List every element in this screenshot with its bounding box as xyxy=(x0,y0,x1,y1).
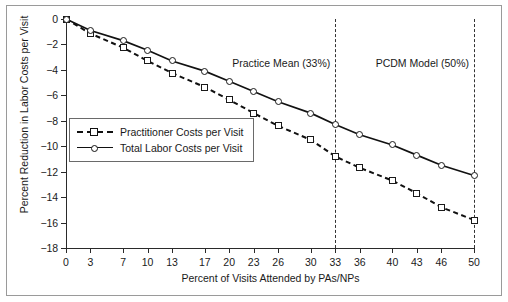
data-point-marker xyxy=(307,110,314,117)
data-point-marker xyxy=(471,217,478,224)
x-tick-mark xyxy=(229,248,230,253)
data-point-marker xyxy=(226,96,233,103)
y-tick-label: −10 xyxy=(40,140,58,152)
legend-label-total-labor: Total Labor Costs per Visit xyxy=(120,142,242,154)
legend-item-practitioner: Practitioner Costs per Visit xyxy=(77,124,244,140)
x-tick-mark xyxy=(123,248,124,253)
data-point-marker xyxy=(201,84,208,91)
x-tick-mark xyxy=(254,248,255,253)
x-tick-label: 23 xyxy=(248,256,260,268)
y-tick-label: 0 xyxy=(52,13,58,25)
x-tick-mark xyxy=(474,248,475,253)
data-point-marker xyxy=(87,27,94,34)
data-point-marker xyxy=(389,177,396,184)
x-tick-label: 30 xyxy=(305,256,317,268)
data-point-marker xyxy=(63,16,70,23)
data-point-marker xyxy=(438,204,445,211)
x-tick-label: 26 xyxy=(272,256,284,268)
reference-line xyxy=(474,19,475,248)
x-tick-label: 43 xyxy=(411,256,423,268)
data-point-marker xyxy=(250,110,257,117)
data-point-marker xyxy=(120,37,127,44)
solid-line-swatch-icon xyxy=(77,142,113,154)
data-point-marker xyxy=(438,162,445,169)
x-tick-mark xyxy=(148,248,149,253)
chart-figure: Percent Reduction in Labor Costs per Vis… xyxy=(0,0,508,302)
x-tick-mark xyxy=(392,248,393,253)
data-point-marker xyxy=(275,122,282,129)
x-tick-label: 0 xyxy=(63,256,69,268)
x-axis-title: Percent of Visits Attended by PAs/NPs xyxy=(66,272,475,284)
x-tick-label: 17 xyxy=(199,256,211,268)
chart-legend: Practitioner Costs per Visit Total Labor… xyxy=(69,118,254,162)
data-point-marker xyxy=(169,70,176,77)
y-tick-label: −18 xyxy=(40,242,58,254)
data-point-marker xyxy=(201,68,208,75)
x-tick-label: 33 xyxy=(329,256,341,268)
x-tick-label: 3 xyxy=(88,256,94,268)
x-tick-mark xyxy=(335,248,336,253)
data-point-marker xyxy=(226,78,233,85)
x-tick-mark xyxy=(441,248,442,253)
x-tick-mark xyxy=(66,248,67,253)
x-tick-label: 46 xyxy=(436,256,448,268)
data-point-marker xyxy=(413,190,420,197)
y-tick-label: −16 xyxy=(40,217,58,229)
data-point-marker xyxy=(413,152,420,159)
y-tick-label: −12 xyxy=(40,166,58,178)
x-tick-label: 13 xyxy=(166,256,178,268)
x-tick-label: 20 xyxy=(223,256,235,268)
y-tick-label: −2 xyxy=(46,38,58,50)
x-tick-label: 50 xyxy=(468,256,480,268)
dashed-line-swatch-icon xyxy=(77,126,113,138)
y-axis-title: Percent Reduction in Labor Costs per Vis… xyxy=(18,0,30,229)
data-point-marker xyxy=(332,121,339,128)
data-point-marker xyxy=(275,98,282,105)
data-point-marker xyxy=(307,136,314,143)
x-tick-mark xyxy=(90,248,91,253)
x-tick-label: 7 xyxy=(120,256,126,268)
data-point-marker xyxy=(471,172,478,179)
y-tick-label: −6 xyxy=(46,89,58,101)
data-point-marker xyxy=(332,153,339,160)
x-tick-mark xyxy=(311,248,312,253)
y-tick-label: −8 xyxy=(46,115,58,127)
x-tick-mark xyxy=(205,248,206,253)
x-tick-mark xyxy=(278,248,279,253)
x-tick-mark xyxy=(417,248,418,253)
y-tick-label: −4 xyxy=(46,64,58,76)
x-tick-label: 40 xyxy=(387,256,399,268)
data-point-marker xyxy=(144,47,151,54)
x-axis-line xyxy=(66,248,475,249)
x-tick-label: 36 xyxy=(354,256,366,268)
data-point-marker xyxy=(144,57,151,64)
x-tick-label: 10 xyxy=(142,256,154,268)
data-point-marker xyxy=(356,164,363,171)
x-tick-mark xyxy=(360,248,361,253)
legend-label-practitioner: Practitioner Costs per Visit xyxy=(120,126,244,138)
data-point-marker xyxy=(120,44,127,51)
x-tick-mark xyxy=(172,248,173,253)
y-tick-label: −14 xyxy=(40,191,58,203)
legend-item-total-labor: Total Labor Costs per Visit xyxy=(77,140,244,156)
